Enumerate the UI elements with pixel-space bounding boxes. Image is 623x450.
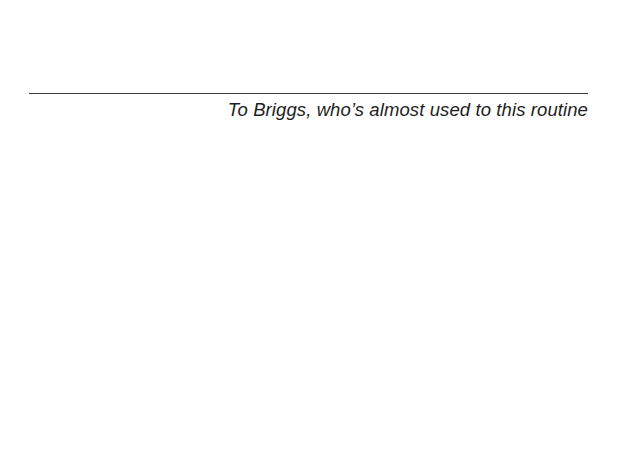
horizontal-rule [29, 93, 588, 94]
dedication-text: To Briggs, who’s almost used to this rou… [228, 99, 588, 121]
